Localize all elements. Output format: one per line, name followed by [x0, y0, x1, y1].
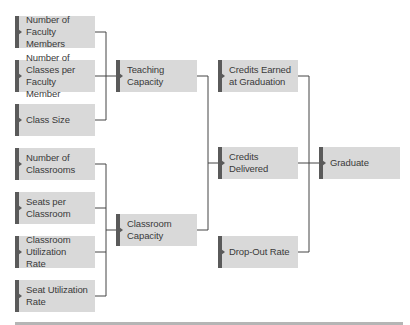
arrow-icon	[221, 160, 225, 166]
node-label: Seat Utilization Rate	[26, 284, 92, 308]
node-label: Credits Earned at Graduation	[229, 64, 295, 88]
arrow-icon	[119, 227, 123, 233]
node-label: Number of Classrooms	[26, 152, 78, 176]
arrow-icon	[18, 117, 22, 123]
arrow-icon	[18, 205, 22, 211]
arrow-icon	[18, 293, 22, 299]
node-classroom-capacity: Classroom Capacity	[116, 214, 197, 246]
node-label: Number of Classes per Faculty Member	[26, 52, 92, 100]
arrow-icon	[18, 249, 22, 255]
node-label: Class Size	[26, 114, 70, 126]
node-label: Drop-Out Rate	[229, 246, 289, 258]
node-graduate: Graduate	[319, 147, 400, 179]
node-label: Graduate	[330, 157, 369, 169]
arrow-icon	[221, 73, 225, 79]
node-label: Teaching Capacity	[127, 64, 194, 88]
node-label: Seats per Classroom	[26, 196, 92, 220]
node-label: Credits Delivered	[229, 151, 295, 175]
arrow-icon	[18, 29, 22, 35]
node-classroom-utilization-rate: Classroom Utilization Rate	[15, 236, 95, 268]
arrow-icon	[18, 161, 22, 167]
node-label: Classroom Capacity	[127, 218, 194, 242]
node-seat-utilization-rate: Seat Utilization Rate	[15, 280, 95, 312]
node-drop-out-rate: Drop-Out Rate	[218, 236, 298, 268]
node-number-of-faculty-members: Number of Faculty Members	[15, 16, 95, 48]
node-seats-per-classroom: Seats per Classroom	[15, 192, 95, 224]
node-label: Classroom Utilization Rate	[26, 234, 86, 270]
node-credits-earned-at-graduation: Credits Earned at Graduation	[218, 60, 298, 92]
node-number-of-classrooms: Number of Classrooms	[15, 148, 95, 180]
node-class-size: Class Size	[15, 104, 95, 136]
arrow-icon	[18, 73, 22, 79]
node-teaching-capacity: Teaching Capacity	[116, 60, 197, 92]
arrow-icon	[322, 160, 326, 166]
arrow-icon	[119, 73, 123, 79]
node-classes-per-faculty-member: Number of Classes per Faculty Member	[15, 60, 95, 92]
arrow-icon	[221, 249, 225, 255]
node-credits-delivered: Credits Delivered	[218, 147, 298, 179]
node-label: Number of Faculty Members	[26, 14, 92, 50]
